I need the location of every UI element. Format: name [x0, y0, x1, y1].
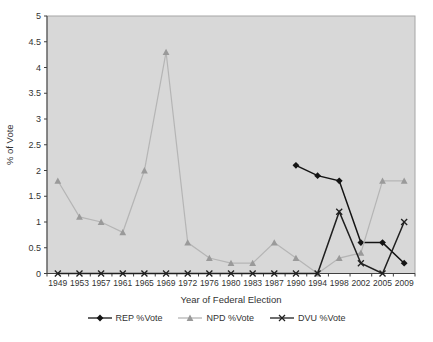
- x-tick-label: 1965: [135, 278, 154, 288]
- plot-area: [47, 16, 415, 274]
- x-tick-label: 2002: [351, 278, 370, 288]
- y-tick-label: 0: [36, 269, 41, 279]
- legend-item-dvu: DVU %Vote: [270, 313, 346, 323]
- legend-label: REP %Vote: [116, 313, 163, 323]
- chart-legend: REP %VoteNPD %VoteDVU %Vote: [0, 313, 433, 323]
- y-tick-label: 2.5: [28, 140, 41, 150]
- y-axis-title: % of Vote: [4, 124, 15, 165]
- triangle-legend-key-icon: [178, 313, 202, 323]
- chart-canvas: 00.511.522.533.544.551949195319571961196…: [0, 0, 433, 342]
- y-tick-label: 0.5: [28, 243, 41, 253]
- x-tick-label: 1980: [222, 278, 241, 288]
- x-tick-label: 1994: [308, 278, 327, 288]
- y-tick-label: 3.5: [28, 88, 41, 98]
- y-tick-label: 4: [36, 63, 41, 73]
- legend-label: DVU %Vote: [298, 313, 346, 323]
- election-vote-line-chart: 00.511.522.533.544.551949195319571961196…: [0, 0, 433, 342]
- x-legend-key-icon: [270, 313, 294, 323]
- x-tick-label: 1998: [330, 278, 349, 288]
- y-tick-label: 5: [36, 11, 41, 21]
- x-tick-label: 1949: [48, 278, 67, 288]
- x-tick-label: 1972: [178, 278, 197, 288]
- x-tick-label: 1961: [113, 278, 132, 288]
- x-tick-label: 1953: [70, 278, 89, 288]
- x-tick-label: 1976: [200, 278, 219, 288]
- y-tick-label: 2: [36, 166, 41, 176]
- y-tick-label: 1.5: [28, 191, 41, 201]
- x-tick-label: 1990: [286, 278, 305, 288]
- diamond-marker: [96, 315, 103, 322]
- x-tick-label: 2005: [373, 278, 392, 288]
- x-tick-label: 1957: [92, 278, 111, 288]
- legend-item-npd: NPD %Vote: [178, 313, 254, 323]
- x-axis-title: Year of Federal Election: [180, 294, 281, 305]
- x-tick-label: 1983: [243, 278, 262, 288]
- x-tick-label: 2009: [395, 278, 414, 288]
- y-tick-label: 1: [36, 217, 41, 227]
- legend-item-rep: REP %Vote: [88, 313, 163, 323]
- legend-label: NPD %Vote: [206, 313, 254, 323]
- x-tick-label: 1969: [157, 278, 176, 288]
- diamond-legend-key-icon: [88, 313, 112, 323]
- y-tick-label: 4.5: [28, 37, 41, 47]
- x-tick-label: 1987: [265, 278, 284, 288]
- y-tick-label: 3: [36, 114, 41, 124]
